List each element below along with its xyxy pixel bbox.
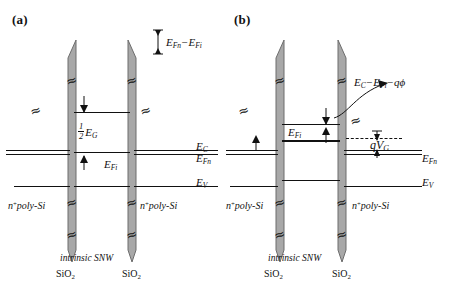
barrier-height-label: EC−EFi−qϕ [354, 76, 405, 90]
snw-word: SNW [302, 253, 321, 263]
fermi-split-arrow [150, 28, 166, 56]
oxide-right-label: SiO2 [332, 268, 351, 280]
barrier-height-arrow-up [320, 126, 332, 144]
channel-valence-band [74, 186, 130, 187]
intrinsic-word: intrinsic [268, 253, 300, 263]
half-gap-arrow-down [78, 96, 90, 114]
valence-band-label: EV [196, 176, 207, 190]
intrinsic-fermi-label: EFi [104, 158, 117, 172]
contact-left-label: n+poly-Si [226, 200, 263, 211]
oxide-right-label: SiO2 [122, 268, 141, 280]
panel-a: (a) ≈ ≈ ≈ ≈ ≈ ≈ ≈ ≈ [0, 0, 226, 289]
quasi-fermi-label: EFn [422, 152, 437, 166]
contact-left-label: n+poly-Si [8, 200, 45, 211]
channel-label: intrinsic SNW [268, 253, 321, 263]
quasi-fermi-label: EFn [196, 152, 211, 166]
left-contact-efn-line [226, 154, 278, 155]
intrinsic-word: intrinsic [60, 253, 92, 263]
half-gap-denominator: 2 [78, 132, 84, 141]
left-contact-efn-line [6, 154, 70, 155]
channel-label: intrinsic SNW [60, 253, 113, 263]
intrinsic-fermi-label: EFi [288, 126, 301, 140]
left-contact-arrow-up [250, 134, 262, 152]
channel-valence-band [282, 180, 340, 181]
left-contact-valence-band [230, 186, 278, 187]
half-bandgap-label: 12EG [78, 122, 97, 141]
contact-right-label: n+poly-Si [140, 200, 177, 211]
valence-band-label: EV [422, 176, 433, 190]
channel-intrinsic-fermi-line [74, 152, 130, 153]
oxide-left-label: SiO2 [56, 268, 75, 280]
gate-bias-label: qVG [370, 138, 389, 153]
oxide-left-label: SiO2 [264, 268, 283, 280]
panel-b: (b) ≈ ≈ ≈ ≈ ≈ ≈ ≈ ≈ [226, 0, 452, 289]
contact-right-label: n+poly-Si [352, 200, 389, 211]
snw-word: SNW [94, 253, 113, 263]
left-contact-valence-band [14, 186, 70, 187]
right-contact-valence-band [344, 186, 422, 187]
half-gap-arrow-up [78, 154, 90, 170]
left-contact-ec-line [6, 150, 70, 151]
fermi-split-label: EFn−EFi [166, 36, 202, 50]
